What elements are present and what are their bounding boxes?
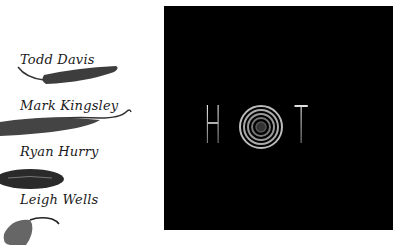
- person-name-ryan: Ryan Hurry: [20, 144, 99, 159]
- hot-logo-panel: H T: [164, 6, 393, 230]
- pepper-icon: [16, 62, 121, 86]
- pepper-icon: [0, 108, 135, 136]
- logo-letter-h: H: [204, 95, 222, 155]
- person-name-leigh: Leigh Wells: [20, 192, 99, 207]
- spiral-o-icon: [238, 104, 284, 150]
- pepper-icon: [0, 166, 66, 192]
- logo-letter-t: T: [294, 95, 308, 155]
- pepper-icon: [0, 214, 62, 245]
